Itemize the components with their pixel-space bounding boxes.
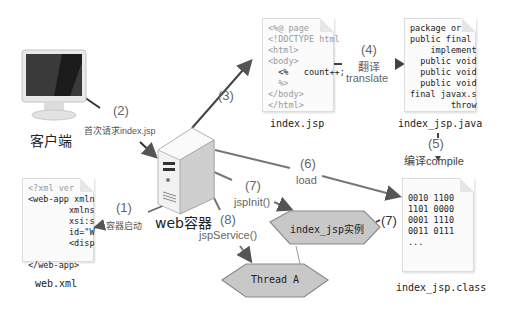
code-line: <!DOCTYPE html (268, 34, 328, 45)
code-line: <disp (28, 238, 88, 249)
index-jsp-class-caption: index_jsp.class (396, 282, 486, 293)
code-line: ... (408, 237, 468, 248)
code-line: <% count++; (268, 67, 328, 78)
code-line: </web-app> (28, 260, 88, 271)
thread-label: Thread A (240, 274, 310, 285)
code-line: %> (268, 78, 328, 89)
step-8-number: (8) (220, 212, 236, 227)
code-line: implement (410, 45, 470, 56)
index-jsp-class-document: 0010 1100 1101 0000 0001 1110 0011 0111 … (402, 178, 474, 272)
step-5-number: (5) (428, 136, 444, 151)
step-7b-number: (7) (381, 213, 397, 228)
step-3-number: (3) (218, 88, 234, 103)
code-line: public void (410, 56, 470, 67)
instance-link (376, 220, 380, 222)
step-4-text-en: translate (346, 72, 388, 84)
step-5-text: 编译compile (404, 152, 464, 168)
step-7-number: (7) (245, 178, 261, 193)
code-line: 0010 1100 (408, 193, 468, 204)
server-tower-icon (158, 128, 214, 214)
step-7-text: jspInit() (234, 196, 270, 208)
code-line: <%@ page (268, 23, 328, 34)
instance-thread-line (296, 246, 300, 264)
code-line: public void (410, 67, 470, 78)
code-line: public final (410, 34, 470, 45)
step-1-number: (1) (116, 200, 132, 215)
step-6-number: (6) (300, 156, 316, 171)
jspinit-line (214, 172, 232, 180)
page-fold-icon (320, 18, 334, 32)
code-line: public void (410, 78, 470, 89)
code-line: </body> (268, 89, 328, 100)
code-line: 0001 1110 (408, 215, 468, 226)
step-1-text: 容器启动 (106, 219, 142, 232)
jspinit-arrow (274, 202, 290, 209)
instance-label: index_jsp实例 (282, 221, 372, 236)
step-2-number: (2) (113, 103, 129, 118)
code-line (28, 249, 88, 260)
monitor-icon (22, 50, 86, 120)
code-line: 0011 0111 (408, 226, 468, 237)
step-6-text: load (296, 174, 317, 186)
code-line: 1101 0000 (408, 204, 468, 215)
code-line: </html> (268, 100, 328, 111)
step-8-text: jspService() (199, 229, 257, 241)
code-line: <web-app xmln (28, 194, 88, 205)
index-jsp-document: <%@ page <!DOCTYPE html <html> <body> <%… (262, 18, 334, 112)
load-line-2 (322, 176, 398, 196)
code-line: throw (410, 100, 470, 111)
code-line: xmlns (28, 205, 88, 216)
code-line: <?xml ver (28, 183, 88, 194)
client-label: 客户端 (30, 130, 72, 150)
code-line: <body> (268, 56, 328, 67)
page-fold-icon (80, 178, 94, 192)
load-line-1 (215, 150, 290, 168)
index-jsp-java-document: package or public final implement public… (404, 18, 476, 112)
code-line: xsi:s (28, 216, 88, 227)
code-line: final javax.s (410, 89, 470, 100)
code-line: <html> (268, 45, 328, 56)
code-line: package or (410, 23, 470, 34)
step-4-number: (4) (361, 42, 377, 57)
page-fold-icon (460, 178, 474, 192)
web-xml-caption: web.xml (35, 278, 77, 289)
step-2-text: 首次请求index.jsp (84, 124, 156, 137)
request-arrow (140, 142, 155, 156)
index-jsp-caption: index.jsp (270, 118, 324, 129)
code-line: id="W (28, 227, 88, 238)
page-fold-icon (462, 18, 476, 32)
jspservice-arrow (240, 246, 250, 260)
web-xml-document: <?xml ver <web-app xmln xmlns xsi:s id="… (22, 178, 94, 262)
index-jsp-java-caption: index_jsp.java (398, 118, 482, 129)
start-arrow (96, 225, 104, 227)
